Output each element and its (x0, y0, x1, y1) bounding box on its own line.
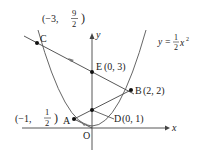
point-D-name: D (114, 113, 121, 124)
x-axis-label: x (171, 122, 177, 133)
point-A-coord-suffix: ) (54, 111, 58, 125)
point-B-coords: (2, 2) (143, 85, 165, 97)
curve-label-var: x (179, 38, 185, 48)
point-A-coord-prefix: (−1, (15, 113, 31, 125)
curve-label-den: 2 (174, 43, 178, 52)
curve-label-prefix: y = (157, 37, 171, 47)
point-B (129, 88, 133, 92)
point-D-coords: (0, 1) (122, 113, 144, 125)
y-axis-arrow-icon (90, 33, 95, 39)
point-E (90, 70, 94, 74)
y-axis-label: y (95, 29, 101, 40)
point-C-coord-prefix: (−3, (42, 13, 58, 25)
point-A-num: 1 (45, 107, 49, 117)
point-C-name: C (40, 33, 47, 44)
point-A-name: A (63, 115, 71, 126)
x-axis-arrow-icon (165, 126, 170, 131)
curve-label-num: 1 (174, 33, 178, 42)
point-E-name: E (96, 61, 102, 72)
point-C (35, 41, 39, 45)
point-C-coord-suffix: ) (81, 11, 85, 25)
diagram-canvas: C (−3, 9 2 ) y y = 1 2 x 2 E (0, 3) B (2… (0, 0, 205, 157)
point-C-den: 2 (72, 19, 76, 29)
point-E-coords: (0, 3) (104, 61, 126, 73)
point-B-name: B (135, 85, 142, 96)
curve-label-exp: 2 (186, 36, 189, 42)
point-A-den: 2 (45, 118, 49, 128)
origin-label: O (83, 130, 90, 141)
point-D (90, 108, 94, 112)
point-A (72, 117, 76, 121)
point-C-num: 9 (72, 8, 76, 18)
parabola-diagram: C (−3, 9 2 ) y y = 1 2 x 2 E (0, 3) B (2… (0, 0, 205, 157)
